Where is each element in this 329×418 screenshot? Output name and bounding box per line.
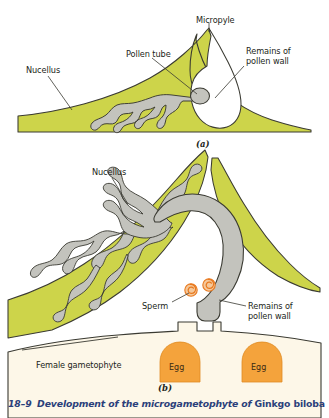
egg-left-shape [160,342,200,382]
leader-sperm [172,293,189,302]
panel-b-marker: (b) [158,383,172,393]
nucellus-left-b [8,150,208,338]
panel-a [18,23,311,133]
label-sperm: Sperm [142,302,168,312]
caption-number: 18–9 [8,398,31,409]
label-nucellus-a: Nucellus [26,66,60,76]
caption-body: Development of the microgametophyte of [37,398,254,409]
label-pollen-tube: Pollen tube [126,50,171,60]
egg-left-label: Egg [169,363,184,372]
label-nucellus-b: Nucellus [92,168,126,178]
label-female-gametophyte: Female gametophyte [36,361,121,371]
caption-species: Ginkgo biloba [255,398,325,409]
leader-nucellus-a [48,76,72,110]
egg-right-shape [242,342,282,382]
label-remains-pollen-wall-a-line2: pollen wall [246,57,289,67]
pollen-tube-tip-a [191,88,210,104]
leader-remains-b [219,300,246,306]
egg-right-label: Egg [251,363,266,372]
label-remains-pollen-wall-b-line2: pollen wall [248,312,291,322]
panel-b [8,150,321,418]
figure-caption: 18–9 Development of the microgametophyte… [8,398,326,409]
label-micropyle: Micropyle [196,16,235,26]
panel-a-marker: (a) [196,139,210,149]
